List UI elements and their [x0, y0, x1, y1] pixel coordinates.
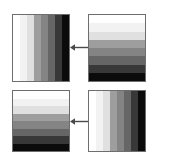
stripe	[13, 121, 69, 129]
stripe	[13, 99, 69, 107]
stripe	[96, 91, 103, 151]
stripe	[13, 91, 69, 99]
stripe	[13, 106, 69, 114]
stripe	[117, 91, 124, 151]
panel-bottom-left	[12, 90, 70, 152]
stripe-group-bottom-right	[89, 91, 145, 151]
stripe	[131, 91, 138, 151]
arrow-left-icon-top	[70, 43, 88, 52]
stripe	[13, 114, 69, 122]
stripe	[138, 91, 145, 151]
stripe	[13, 144, 69, 152]
arrow-left-icon-bottom	[70, 117, 88, 126]
stripe	[89, 40, 145, 48]
stripe	[48, 15, 55, 81]
stripe	[89, 65, 145, 73]
stripe-group-top-left	[13, 15, 69, 81]
panel-top-left	[12, 14, 70, 82]
stripe	[27, 15, 34, 81]
stripe	[13, 129, 69, 137]
stripe	[89, 15, 145, 23]
figure-canvas	[0, 0, 169, 166]
stripe	[89, 56, 145, 64]
stripe	[103, 91, 110, 151]
stripe	[13, 136, 69, 144]
stripe-group-bottom-left	[13, 91, 69, 151]
stripe	[89, 23, 145, 31]
stripe	[20, 15, 27, 81]
stripe	[124, 91, 131, 151]
stripe	[89, 91, 96, 151]
stripe	[89, 73, 145, 81]
stripe	[41, 15, 48, 81]
panel-top-right	[88, 14, 146, 82]
stripe	[89, 48, 145, 56]
stripe	[89, 32, 145, 40]
stripe	[34, 15, 41, 81]
stripe	[62, 15, 69, 81]
stripe-group-top-right	[89, 15, 145, 81]
panel-bottom-right	[88, 90, 146, 152]
stripe	[110, 91, 117, 151]
stripe	[55, 15, 62, 81]
stripe	[13, 15, 20, 81]
